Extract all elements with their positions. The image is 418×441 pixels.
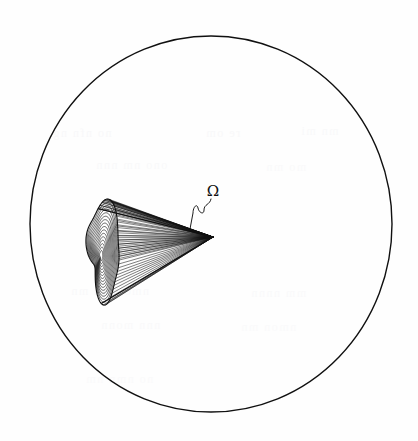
figure-drawing: Ω xyxy=(0,0,418,441)
figure-canvas: no nfn ngre ommn miono nm nnnmo mnnmo nm… xyxy=(0,0,418,441)
omega-leader-line xyxy=(190,199,211,229)
omega-label: Ω xyxy=(207,182,219,200)
sphere-outline xyxy=(30,36,392,412)
